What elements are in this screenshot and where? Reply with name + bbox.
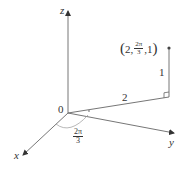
diagram-canvas	[0, 0, 186, 173]
angle-label: 2π 3	[72, 128, 84, 145]
angle-arc	[56, 115, 88, 128]
radius-label: 2	[122, 92, 128, 103]
point-theta-fraction: 2π 3	[134, 41, 143, 56]
y-axis-label: y	[169, 137, 174, 148]
z-axis-label: z	[60, 5, 64, 16]
point-z: ,1	[144, 43, 152, 55]
angle-fraction: 2π 3	[73, 128, 83, 145]
x-axis	[23, 113, 68, 155]
origin-label: 0	[58, 104, 64, 115]
angle-dot	[88, 110, 90, 112]
point-coordinates-label: ( 2, 2π 3 ,1 )	[120, 41, 158, 56]
point-theta-den: 3	[137, 49, 141, 56]
close-paren: )	[153, 41, 158, 56]
x-axis-label: x	[14, 150, 19, 161]
height-label: 1	[159, 67, 165, 78]
point-dot	[167, 46, 170, 49]
radius-line	[68, 97, 169, 113]
point-r: 2,	[125, 43, 133, 55]
angle-den: 3	[76, 137, 80, 145]
